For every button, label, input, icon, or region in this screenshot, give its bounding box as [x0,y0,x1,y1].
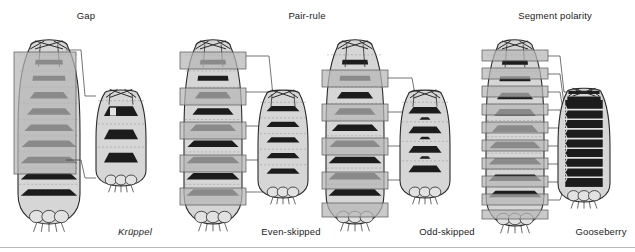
tail-hair [413,197,416,204]
expression-stripe [482,50,548,61]
mutant-label-odd-skipped: Odd-skipped [404,226,490,237]
denticle-belt [267,137,300,142]
mutant-larva-kruppel [96,89,146,192]
expression-stripe [482,194,548,205]
denticle-belt [337,92,373,98]
tail-hair [225,223,228,231]
denticle-belt [409,146,442,153]
tail-hair [348,223,349,231]
expression-stripe [322,138,388,155]
tail-hair [594,201,597,208]
tail-hair [501,225,504,233]
belt-notch [110,108,116,116]
tail-hair [131,185,134,192]
denticle-belt [329,189,382,195]
expression-stripe [322,70,388,87]
larva-body-outline [400,90,450,198]
column-header-gap: Gap [56,10,116,21]
denticle-belt [21,189,78,195]
tail-hair [34,223,37,232]
denticle-belt [329,157,382,163]
denticle-belt [104,129,138,139]
expression-domain-overlay [14,52,76,174]
tail-hair [508,225,509,233]
tail-hair [571,201,574,208]
expression-stripe [14,52,76,174]
larva-illustrations [0,0,635,252]
tail-hair [271,197,274,204]
tail-hair [367,223,370,231]
expression-stripe [180,155,246,172]
tail-papilla-2 [125,175,137,185]
tail-hair [521,225,522,233]
expression-stripe [482,140,548,151]
tail-papilla-2 [429,187,441,197]
expression-stripe [322,172,388,189]
tail-hair [206,223,207,231]
expression-stripe [482,86,548,97]
denticle-belt [409,166,442,173]
denticle-belt [409,107,442,114]
larva-body-outline [326,40,384,224]
mutant-larva-gooseberry [558,88,610,208]
expression-stripe [180,88,246,105]
denticle-belt [187,141,238,147]
tail-hair [589,201,590,208]
normal-larva-odd-skipped [326,40,384,232]
tail-papilla-2 [287,187,299,197]
denticle-belt [332,124,378,130]
tail-hair [341,223,344,231]
mutant-label-kruppel: Krüppel [100,226,170,237]
denticle-belt [267,106,300,111]
expression-stripe [180,122,246,139]
figure-bottom-rule [0,247,635,248]
expression-stripe [482,176,548,187]
denticle-belt [409,127,442,134]
mutant-label-even-skipped: Even-skipped [246,226,336,237]
panel-gap [14,40,146,232]
denticle-belt [104,153,138,163]
denticle-lawn [565,100,602,187]
expression-stripe [180,188,246,205]
tail-hair [219,223,220,231]
tail-hair [435,197,438,204]
expression-stripe [482,104,548,115]
mutant-label-gooseberry: Gooseberry [560,226,635,237]
tail-papilla-2 [588,191,600,201]
expression-stripe [482,158,548,169]
denticle-belt [267,122,300,127]
column-header-segment-polarity: Segment polarity [500,10,610,21]
mutant-larva-even-skipped [258,90,308,204]
tail-hair [61,223,64,232]
panel-pair-rule-odd [322,40,450,232]
denticle-belt [192,108,233,114]
tail-hair [199,223,202,231]
expression-stripe [322,104,388,121]
denticle-belt [267,169,300,174]
expression-stripe [322,203,388,217]
denticle-belt [267,153,300,158]
denticle-belt [187,173,240,179]
expression-stripe [482,122,548,133]
tail-hair [55,223,57,232]
expression-stripe [482,210,548,219]
column-header-pair-rule: Pair-rule [272,10,342,21]
tail-hair [41,223,43,232]
tail-hair [361,223,362,231]
expression-stripe [180,52,246,69]
tail-papilla-2 [218,211,231,222]
panel-segment-polarity [482,40,610,234]
denticle-belt [197,76,228,81]
expression-stripe [482,68,548,79]
panel-pair-rule-even [180,40,308,232]
segmentation-gene-figure: Gap Pair-rule Segment polarity Krüppel E… [0,0,635,252]
mutant-larva-odd-skipped [400,90,450,204]
tail-hair [527,225,530,233]
tail-hair [578,201,579,208]
tail-papilla-2 [54,210,68,222]
tail-hair [109,185,112,192]
tail-hair [293,197,296,204]
denticle-belt [104,106,138,116]
